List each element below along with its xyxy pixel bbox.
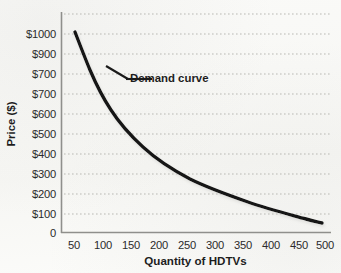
x-axis-tick-labels: 50 100 150 200 250 300 350 400 450 500 [0, 0, 341, 273]
x-tick-label: 250 [178, 240, 196, 251]
x-tick-label: 500 [316, 240, 334, 251]
y-axis-title: Price ($) [5, 92, 17, 156]
x-tick-label: 200 [150, 240, 168, 251]
x-tick-label: 350 [234, 240, 252, 251]
x-axis-title: Quantity of HDTVs [60, 254, 331, 267]
x-tick-label: 150 [122, 240, 140, 251]
x-tick-label: 100 [94, 240, 112, 251]
x-tick-label: 50 [68, 240, 80, 251]
x-tick-label: 400 [262, 240, 280, 251]
x-tick-label: 450 [290, 240, 308, 251]
demand-curve-figure: $1000 $900 $700 $700 $600 $500 $400 $300… [0, 0, 341, 273]
demand-curve-annotation-label: Demand curve [130, 73, 209, 84]
x-tick-label: 300 [206, 240, 224, 251]
